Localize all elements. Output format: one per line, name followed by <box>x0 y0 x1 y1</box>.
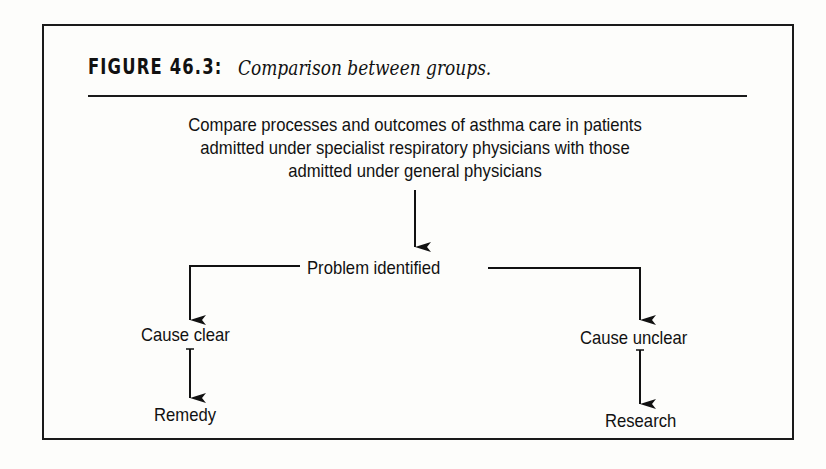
branch-right-condition: Cause unclear <box>580 327 687 349</box>
branch-right-outcome: Research <box>605 410 676 432</box>
arrow-to-cause-clear <box>190 266 300 320</box>
connector-lines <box>0 0 826 469</box>
decision-node: Problem identified <box>307 257 440 279</box>
branch-left-condition: Cause clear <box>141 324 230 346</box>
arrow-to-cause-unclear <box>488 268 640 320</box>
branch-left-outcome: Remedy <box>154 404 216 426</box>
